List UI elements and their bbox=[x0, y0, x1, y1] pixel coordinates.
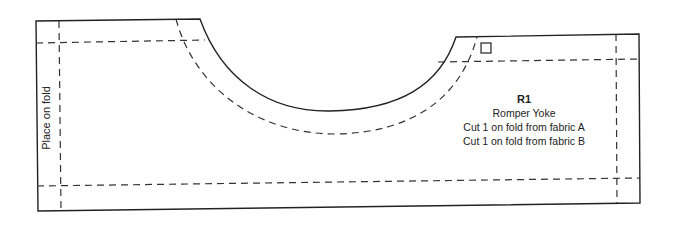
cut-instruction-b: Cut 1 on fold from fabric B bbox=[463, 135, 585, 147]
fold-label: Place on fold bbox=[40, 86, 52, 150]
seam-line-left bbox=[59, 21, 61, 211]
piece-id: R1 bbox=[517, 93, 531, 105]
piece-name: Romper Yoke bbox=[492, 107, 555, 119]
square-marker-icon bbox=[481, 43, 491, 53]
seam-line-top-left bbox=[36, 40, 205, 43]
pattern-diagram: Place on fold R1 Romper Yoke Cut 1 on fo… bbox=[0, 0, 673, 226]
seam-line-right bbox=[616, 34, 617, 203]
seam-line-bottom bbox=[37, 178, 640, 186]
cut-instruction-a: Cut 1 on fold from fabric A bbox=[463, 121, 584, 133]
